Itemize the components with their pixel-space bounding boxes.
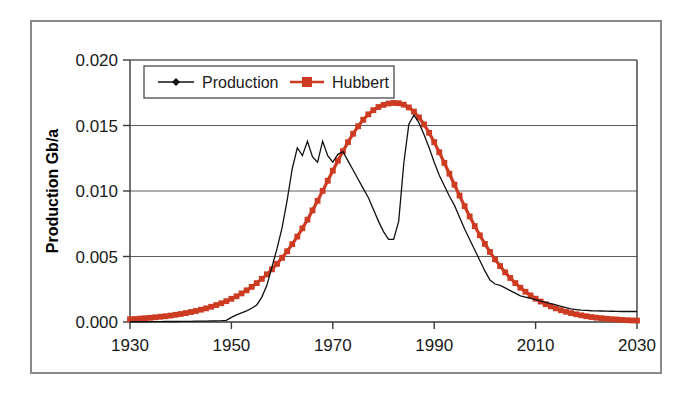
hubbert-marker xyxy=(568,310,574,316)
figure-container: 0.0000.0050.0100.0150.020193019501970199… xyxy=(0,0,687,394)
hubbert-marker xyxy=(132,316,138,322)
hubbert-marker xyxy=(604,316,610,322)
hubbert-marker xyxy=(244,287,250,293)
hubbert-marker xyxy=(178,311,184,317)
hubbert-marker xyxy=(588,314,594,320)
hubbert-marker xyxy=(624,317,630,323)
x-tick-label: 2010 xyxy=(517,336,555,355)
hubbert-marker xyxy=(472,223,478,229)
hubbert-marker xyxy=(310,207,316,213)
hubbert-marker xyxy=(376,104,382,110)
x-tick-label: 1990 xyxy=(415,336,453,355)
hubbert-marker xyxy=(213,302,219,308)
hubbert-marker xyxy=(594,315,600,321)
hubbert-marker xyxy=(619,317,625,323)
hubbert-marker xyxy=(229,296,235,302)
hubbert-marker xyxy=(274,261,280,267)
hubbert-marker xyxy=(447,171,453,177)
hubbert-marker xyxy=(401,102,407,108)
hubbert-marker xyxy=(254,280,260,286)
hubbert-marker xyxy=(299,225,305,231)
chart-plot: 0.0000.0050.0100.0150.020193019501970199… xyxy=(32,22,660,372)
hubbert-marker xyxy=(320,188,326,194)
series-hubbert xyxy=(127,100,640,323)
hubbert-line xyxy=(130,103,637,321)
legend-marker-hubbert xyxy=(302,77,312,87)
hubbert-marker xyxy=(315,198,321,204)
hubbert-marker xyxy=(142,315,148,321)
hubbert-marker xyxy=(370,107,376,113)
hubbert-marker xyxy=(330,168,336,174)
production-line xyxy=(130,115,637,322)
hubbert-marker xyxy=(431,139,437,145)
hubbert-marker xyxy=(507,275,513,281)
hubbert-marker xyxy=(421,122,427,128)
hubbert-marker xyxy=(259,276,265,282)
hubbert-marker xyxy=(452,182,458,188)
hubbert-marker xyxy=(350,131,356,137)
hubbert-marker xyxy=(411,109,417,115)
chart-frame: 0.0000.0050.0100.0150.020193019501970199… xyxy=(30,20,662,374)
hubbert-marker xyxy=(502,269,508,275)
hubbert-marker xyxy=(462,203,468,209)
hubbert-marker xyxy=(482,241,488,247)
hubbert-marker xyxy=(477,232,483,238)
hubbert-marker xyxy=(294,234,300,240)
hubbert-marker xyxy=(325,178,331,184)
hubbert-marker xyxy=(523,289,529,295)
y-tick-label: 0.010 xyxy=(75,182,118,201)
hubbert-marker xyxy=(208,304,214,310)
hubbert-marker xyxy=(305,217,311,223)
hubbert-marker xyxy=(517,285,523,291)
hubbert-marker xyxy=(614,317,620,323)
hubbert-marker xyxy=(137,316,143,322)
hubbert-marker xyxy=(487,249,493,255)
hubbert-marker xyxy=(599,315,605,321)
hubbert-marker xyxy=(634,318,640,324)
hubbert-marker xyxy=(457,193,463,199)
hubbert-marker xyxy=(492,256,498,262)
hubbert-marker xyxy=(386,101,392,107)
hubbert-marker xyxy=(578,312,584,318)
hubbert-marker xyxy=(467,214,473,220)
y-tick-label: 0.015 xyxy=(75,117,118,136)
hubbert-marker xyxy=(183,310,189,316)
hubbert-marker xyxy=(360,117,366,123)
hubbert-marker xyxy=(355,123,361,129)
hubbert-marker xyxy=(173,312,179,318)
hubbert-marker xyxy=(441,160,447,166)
hubbert-marker xyxy=(223,298,229,304)
hubbert-marker xyxy=(512,280,518,286)
x-tick-label: 1950 xyxy=(212,336,250,355)
hubbert-marker xyxy=(406,105,412,111)
hubbert-marker xyxy=(573,311,579,317)
x-tick-label: 1970 xyxy=(314,336,352,355)
x-tick-label: 1930 xyxy=(111,336,149,355)
legend-label-hubbert: Hubbert xyxy=(332,74,389,91)
hubbert-marker xyxy=(249,284,255,290)
legend-label-production: Production xyxy=(202,74,279,91)
hubbert-marker xyxy=(163,313,169,319)
hubbert-marker xyxy=(239,291,245,297)
hubbert-marker xyxy=(289,241,295,247)
hubbert-marker xyxy=(426,130,432,136)
hubbert-marker xyxy=(198,307,204,313)
y-tick-label: 0.000 xyxy=(75,313,118,332)
hubbert-marker xyxy=(436,149,442,155)
hubbert-marker xyxy=(203,305,209,311)
hubbert-marker xyxy=(168,313,174,319)
y-tick-label: 0.005 xyxy=(75,248,118,267)
hubbert-marker xyxy=(193,308,199,314)
hubbert-marker xyxy=(147,315,153,321)
hubbert-marker xyxy=(158,314,164,320)
hubbert-marker xyxy=(284,248,290,254)
hubbert-marker xyxy=(629,318,635,324)
hubbert-marker xyxy=(279,255,285,261)
hubbert-marker xyxy=(553,305,559,311)
hubbert-marker xyxy=(152,314,158,320)
y-axis-title: Production Gb/a xyxy=(44,129,61,254)
hubbert-marker xyxy=(609,316,615,322)
hubbert-marker xyxy=(563,309,569,315)
hubbert-marker xyxy=(345,139,351,145)
y-tick-label: 0.020 xyxy=(75,51,118,70)
